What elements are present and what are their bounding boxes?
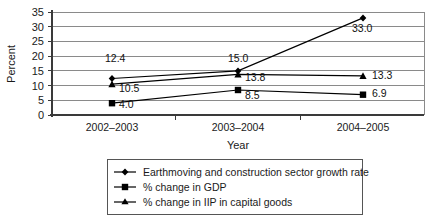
y-tick-label-25: 25 — [32, 35, 44, 47]
legend-label-gdp: % change in GDP — [143, 181, 226, 193]
y-tick-label-5: 5 — [38, 94, 44, 106]
data-label-earthmoving-0: 12.4 — [105, 52, 126, 64]
data-label-iip-0: 10.5 — [119, 82, 140, 94]
data-label-gdp-0: 4.0 — [119, 98, 134, 110]
y-tick-label-35: 35 — [32, 6, 44, 18]
x-axis-title: Year — [227, 139, 250, 151]
data-label-iip-2: 13.3 — [372, 69, 393, 81]
y-tick-label-0: 0 — [38, 109, 44, 121]
legend: Earthmoving and construction sector grow… — [107, 159, 369, 214]
marker-square-2 — [360, 92, 366, 98]
data-label-earthmoving-2: 33.0 — [352, 22, 373, 34]
data-label-gdp-1: 8.5 — [245, 89, 260, 101]
y-tick-label-10: 10 — [32, 80, 44, 92]
x-tick-label-0: 2002–2003 — [86, 121, 139, 133]
x-tick-label-2: 2004–2005 — [337, 121, 390, 133]
legend-label-earthmoving: Earthmoving and construction sector grow… — [143, 166, 369, 178]
x-tick-labels: 2002–2003 2003–2004 2004–2005 — [86, 121, 390, 133]
data-label-earthmoving-1: 15.0 — [228, 52, 249, 64]
y-tick-label-20: 20 — [32, 50, 44, 62]
x-tick-label-1: 2003–2004 — [212, 121, 265, 133]
y-tick-label-15: 15 — [32, 65, 44, 77]
line-chart: 35 30 25 20 15 10 5 0 Percent 2002–2003 … — [0, 0, 435, 224]
y-tick-label-30: 30 — [32, 21, 44, 33]
marker-square-1 — [235, 87, 241, 93]
marker-square-0 — [109, 100, 115, 106]
legend-item-earthmoving[interactable]: Earthmoving and construction sector grow… — [114, 166, 369, 178]
data-label-gdp-2: 6.9 — [372, 87, 387, 99]
legend-label-iip: % change in IIP in capital goods — [143, 196, 292, 208]
legend-marker-square-icon — [122, 184, 128, 190]
y-axis-title: Percent — [5, 45, 17, 83]
data-label-iip-1: 13.8 — [245, 71, 266, 83]
